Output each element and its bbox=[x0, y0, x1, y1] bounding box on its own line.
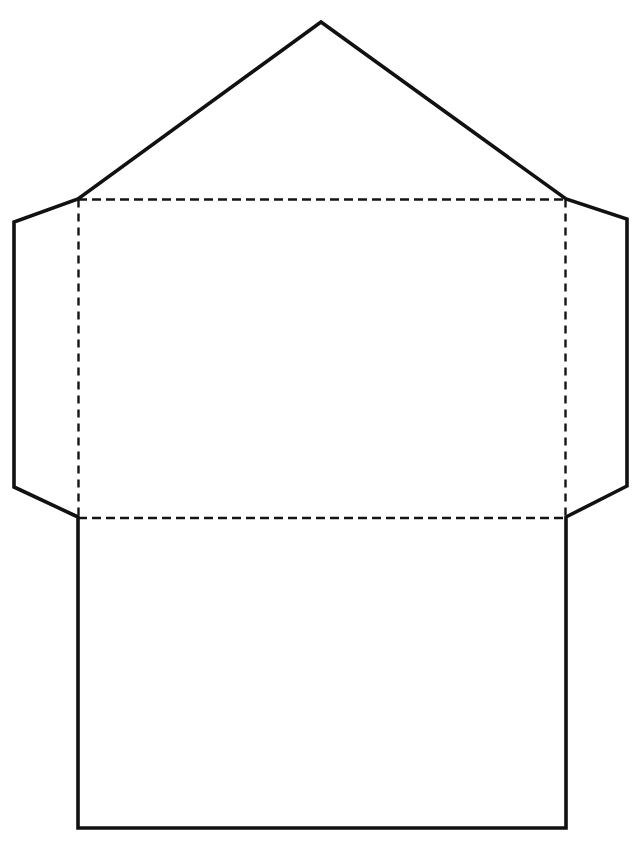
envelope-template-page bbox=[0, 0, 643, 841]
envelope-template-drawing bbox=[0, 0, 643, 841]
